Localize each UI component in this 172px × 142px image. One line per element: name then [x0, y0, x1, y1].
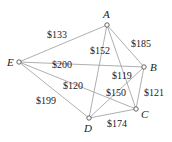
edge-D-C: [89, 109, 136, 118]
edge-weight-label: $121: [144, 87, 164, 98]
edge-weight-label: $174: [107, 118, 127, 129]
vertex-label: B: [150, 61, 157, 73]
edge-weight-label: $133: [47, 29, 67, 40]
edge-weight-label: $200: [52, 59, 72, 70]
weighted-graph-diagram: $133$185$200$152$119$120$199$150$121$174…: [0, 0, 172, 142]
edge-weight-label: $152: [90, 45, 110, 56]
vertex-label: C: [141, 108, 149, 120]
edge-weight-label: $199: [36, 95, 56, 106]
vertex-A: [105, 23, 109, 27]
edge-weight-label: $185: [131, 38, 151, 49]
vertex-D: [87, 116, 91, 120]
edge-weight-label: $120: [63, 80, 83, 91]
vertex-B: [142, 65, 146, 69]
edge-weight-label: $150: [106, 87, 126, 98]
vertex-C: [134, 107, 138, 111]
vertex-label: A: [102, 8, 110, 20]
vertex-label: D: [83, 122, 92, 134]
node-labels: ABCDE: [6, 8, 157, 134]
edge-weight-label: $119: [112, 70, 132, 81]
vertex-E: [17, 60, 21, 64]
edge-E-B: [19, 62, 144, 67]
vertex-label: E: [6, 56, 14, 68]
